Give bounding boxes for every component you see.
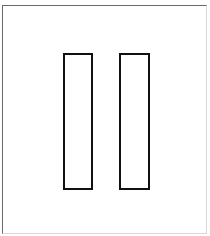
left-rectangle [63,53,93,190]
right-rectangle [119,53,150,190]
diagram-frame [2,5,207,234]
